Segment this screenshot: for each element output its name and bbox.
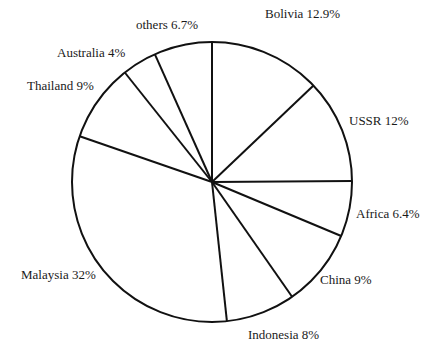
slice-label-malaysia: Malaysia 32%	[21, 267, 96, 282]
slice-label-china: China 9%	[320, 272, 372, 287]
slice-label-africa: Africa 6.4%	[356, 206, 420, 221]
slice-label-australia: Australia 4%	[57, 45, 125, 60]
pie-chart: Bolivia 12.9%USSR 12%Africa 6.4%China 9%…	[0, 0, 436, 357]
slice-label-ussr: USSR 12%	[349, 113, 409, 128]
slice-divider-africa	[212, 181, 352, 182]
slice-label-bolivia: Bolivia 12.9%	[265, 6, 340, 21]
slice-label-indonesia: Indonesia 8%	[248, 327, 319, 342]
slice-label-thailand: Thailand 9%	[27, 78, 94, 93]
slice-label-others: others 6.7%	[136, 17, 198, 32]
pie-slices	[72, 42, 352, 322]
